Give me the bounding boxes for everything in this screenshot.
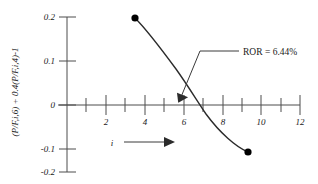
y-tick-label-0.1: 0.1 (44, 56, 55, 66)
curve-start-marker (131, 14, 138, 21)
y-tick-label-neg0.2: -0.2 (41, 167, 56, 177)
y-tick-label-neg0.1: -0.1 (41, 144, 55, 154)
chart-figure: 0.2 0.1 0 -0.1 -0.2 2 4 6 8 10 12 (P/F,i… (0, 0, 318, 184)
y-tick-label-0.2: 0.2 (44, 12, 56, 22)
x-axis-title: i (111, 138, 114, 148)
x-tick-label-6: 6 (182, 117, 187, 127)
x-tick-label-2: 2 (104, 117, 109, 127)
ror-annotation-label: ROR = 6.44% (243, 47, 297, 57)
x-tick-label-12: 12 (296, 117, 306, 127)
chart-canvas: 0.2 0.1 0 -0.1 -0.2 2 4 6 8 10 12 (P/F,i… (0, 0, 318, 184)
x-direction-arrow-head (164, 137, 175, 147)
ror-arrow-head (174, 93, 188, 106)
x-tick-label-8: 8 (221, 117, 226, 127)
x-tick-label-4: 4 (143, 117, 148, 127)
y-axis-title: (P/F,i,6) + 0.4(P/F,i,4)-1 (10, 48, 20, 137)
x-tick-label-10: 10 (257, 117, 267, 127)
curve-end-marker (244, 148, 251, 155)
y-tick-label-0: 0 (51, 100, 56, 110)
data-curve (135, 18, 248, 152)
